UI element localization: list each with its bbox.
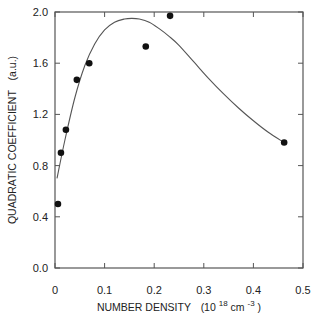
x-axis-units-prefix: (10: [201, 301, 216, 313]
data-point: [167, 13, 174, 20]
series-layer: [55, 13, 288, 208]
y-axis-label: QUADRATIC COEFFICIENT (a.u.): [6, 56, 18, 224]
data-point: [281, 139, 288, 146]
y-tick-label: 0.4: [33, 211, 48, 223]
x-axis-label-text: NUMBER DENSITY: [97, 301, 191, 313]
y-axis-label-text: QUADRATIC COEFFICIENT: [6, 90, 18, 225]
data-point: [63, 126, 70, 133]
y-tick-label: 1.2: [33, 108, 48, 120]
y-tick-label: 1.6: [33, 57, 48, 69]
y-tick-label: 2.0: [33, 6, 48, 18]
x-tick-label: 0.5: [295, 284, 310, 296]
plot-border: [55, 12, 303, 268]
x-tick-label: 0.4: [246, 284, 261, 296]
y-tick-label: 0.8: [33, 160, 48, 172]
data-point: [74, 77, 81, 84]
fit-curve: [57, 18, 284, 178]
data-point: [142, 43, 149, 50]
x-axis-units-exp2: -3: [247, 299, 255, 308]
data-point: [55, 201, 62, 208]
x-tick-label: 0.1: [97, 284, 112, 296]
y-tick-label: 0.0: [33, 262, 48, 274]
x-tick-label: 0.3: [196, 284, 211, 296]
y-axis-ticks: 0.00.40.81.21.62.0: [33, 6, 303, 274]
y-axis-units: (a.u.): [6, 56, 18, 81]
chart: 00.10.20.30.40.5 0.00.40.81.21.62.0 NUMB…: [0, 0, 316, 325]
x-axis-label: NUMBER DENSITY (10 18 cm -3 ): [97, 296, 261, 313]
x-axis-units-suffix: ): [258, 301, 262, 313]
x-axis-units-exp: 18: [219, 299, 228, 308]
plot-frame: [55, 12, 303, 268]
x-axis-ticks: 00.10.20.30.40.5: [52, 12, 311, 296]
x-axis-units-mid: cm: [231, 301, 245, 313]
x-tick-label: 0.2: [147, 284, 162, 296]
data-point: [86, 60, 93, 67]
data-point: [58, 150, 65, 157]
x-tick-label: 0: [52, 284, 58, 296]
